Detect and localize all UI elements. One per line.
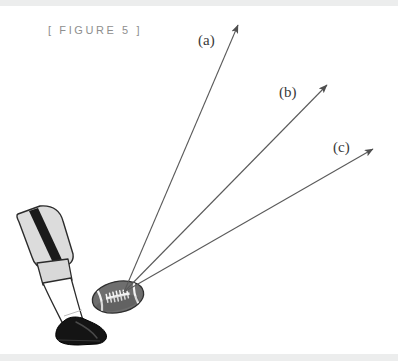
- vector-label-c: (c): [333, 139, 350, 156]
- figure-page: [ FIGURE 5 ]: [0, 0, 398, 361]
- vector-a-arrow: [124, 25, 238, 292]
- vector-label-a: (a): [198, 32, 215, 49]
- kicking-leg: [17, 206, 107, 345]
- vector-c-arrow: [124, 149, 373, 292]
- vector-label-b: (b): [279, 84, 297, 101]
- figure-illustration: [0, 0, 398, 361]
- football: [89, 276, 146, 317]
- vector-b-arrow: [124, 85, 327, 292]
- trajectory-vectors: [124, 25, 373, 292]
